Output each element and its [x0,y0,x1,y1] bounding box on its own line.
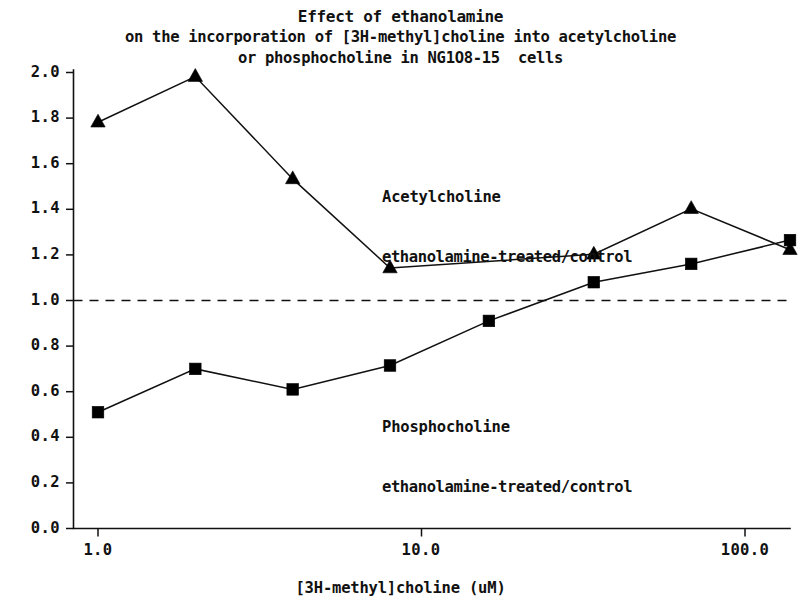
series-annotation-acetylcholine: Acetylcholine ethanolamine-treated/contr… [382,147,632,307]
y-axis-ticks [66,73,74,529]
figure-canvas: Effect of ethanolamine on the incorporat… [0,0,801,607]
y-tick-label-0.6: 0.6 [2,382,60,400]
annotation-sub-phosphocholine: ethanolamine-treated/control [382,477,632,497]
y-tick-label-1.6: 1.6 [2,154,60,172]
x-tick-label-100.0: 100.0 [700,541,790,559]
y-tick-label-1.2: 1.2 [2,245,60,263]
annotation-title-phosphocholine: Phosphocholine [382,417,632,437]
y-tick-label-0.4: 0.4 [2,427,60,445]
x-axis-caption: [3H-methyl]choline (uM) [0,579,801,597]
y-tick-label-0.0: 0.0 [2,519,60,537]
x-tick-label-10.0: 10.0 [376,541,466,559]
y-tick-label-1.4: 1.4 [2,199,60,217]
y-tick-label-0.2: 0.2 [2,473,60,491]
x-tick-label-1.0: 1.0 [53,541,143,559]
annotation-sub-acetylcholine: ethanolamine-treated/control [382,247,632,267]
series-annotation-phosphocholine: Phosphocholine ethanolamine-treated/cont… [382,377,632,537]
annotation-title-acetylcholine: Acetylcholine [382,187,632,207]
y-tick-label-0.8: 0.8 [2,336,60,354]
y-tick-label-2.0: 2.0 [2,63,60,81]
y-tick-label-1.0: 1.0 [2,291,60,309]
y-tick-label-1.8: 1.8 [2,108,60,126]
